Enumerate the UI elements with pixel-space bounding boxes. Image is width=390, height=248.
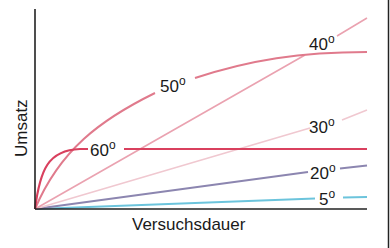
label-40: 40o <box>309 32 335 54</box>
label-5: 5o <box>319 187 335 209</box>
x-axis-label: Versuchsdauer <box>132 215 246 234</box>
chart: 50o 60o 40o 30o 20o 5o Versuchsdauer Ums… <box>0 0 390 248</box>
label-20: 20o <box>310 161 336 183</box>
label-50: 50o <box>160 74 186 96</box>
label-30: 30o <box>309 115 335 137</box>
label-60: 60o <box>90 138 116 160</box>
y-axis-label: Umsatz <box>12 99 31 157</box>
